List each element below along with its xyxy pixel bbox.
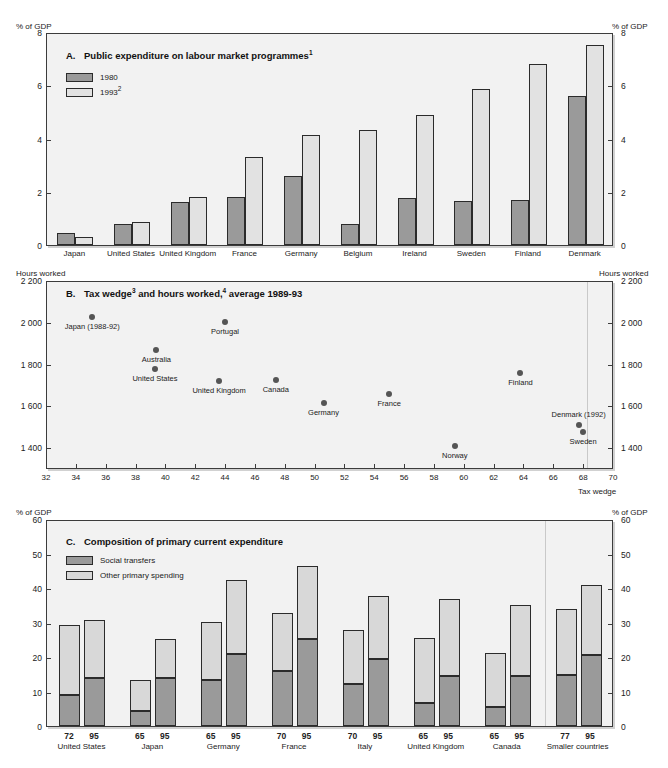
panel-c-segment-other-primary-spending [439, 599, 460, 676]
panel-a-bar-france-1980 [227, 197, 245, 245]
panel-b-dot-label: Sweden [570, 437, 597, 446]
panel-c-segment-social-transfers [272, 671, 293, 726]
panel-c-tickmark [46, 555, 51, 556]
panel-c-ytick-right: 10 [621, 689, 630, 698]
panel-c-segment-other-primary-spending [581, 585, 602, 655]
panel-c-bar-germany-95 [226, 580, 247, 726]
panel-c-ytick-left: 20 [22, 654, 42, 663]
panel-a-tickmark [46, 140, 51, 141]
panel-a-bar-germany-1993 [302, 135, 320, 245]
panel-a-title-text: Public expenditure on labour market prog… [84, 50, 309, 61]
panel-c-segment-social-transfers [343, 684, 364, 726]
panel-b-dot-portugal [222, 319, 228, 325]
legend-label-other-primary-spending: Other primary spending [100, 571, 184, 580]
panel-b-ytick-left: 2 000 [14, 319, 42, 328]
panel-b-dot-canada [273, 377, 279, 383]
panel-c-tickmark [46, 624, 51, 625]
panel-b-dot-finland [517, 370, 523, 376]
panel-b-xtickmark [464, 464, 465, 469]
panel-a-bar-germany-1980 [284, 176, 302, 245]
panel-b-dot-label: Germany [308, 408, 339, 417]
panel-c-segment-other-primary-spending [59, 625, 80, 695]
panel-c-segment-social-transfers [84, 678, 105, 726]
panel-b-dot-sweden [580, 429, 586, 435]
panel-c-tickmark [46, 693, 51, 694]
panel-b-xtickmark [553, 464, 554, 469]
panel-c-segment-social-transfers [439, 676, 460, 726]
panel-b-xtickmark [285, 464, 286, 469]
legend-label-1980: 1980 [100, 73, 118, 82]
panel-c-country-label: Smaller countries [528, 743, 628, 752]
panel-c-segment-other-primary-spending [84, 620, 105, 678]
panel-a-bar-united-states-1993 [132, 222, 150, 245]
figure-top-title [0, 0, 668, 6]
panel-a-bar-denmark-1993 [586, 45, 604, 245]
panel-b-dot-label: Australia [142, 355, 171, 364]
panel-a-title: A.Public expenditure on labour market pr… [66, 50, 313, 61]
panel-c-segment-social-transfers [59, 695, 80, 726]
panel-b-tickmark [46, 323, 51, 324]
panel-c-segment-other-primary-spending [368, 596, 389, 658]
panel-c-title: C.Composition of primary current expendi… [66, 536, 283, 547]
panel-c-bar-united-states-72 [59, 625, 80, 726]
panel-b-dot-australia [153, 347, 159, 353]
panel-b-tickmark [608, 323, 613, 324]
panel-c-ytick-right: 40 [621, 585, 630, 594]
panel-b-plot-area [46, 281, 613, 469]
panel-a-ytick-left: 2 [28, 189, 42, 198]
panel-b-xtickmark [165, 464, 166, 469]
panel-b-xtickmark [434, 464, 435, 469]
panel-a-bar-united-kingdom-1993 [189, 197, 207, 245]
panel-b-dot-label: France [378, 399, 401, 408]
panel-b-tickmark [608, 365, 613, 366]
panel-a-ytick-left: 6 [28, 82, 42, 91]
panel-c-bar-japan-95 [155, 639, 176, 726]
panel-b-ytick-right: 2 000 [621, 319, 642, 328]
panel-b-dot-united-kingdom [216, 378, 222, 384]
panel-b-dot-label: Denmark (1992) [552, 410, 606, 419]
panel-c-bar-united-kingdom-65 [414, 638, 435, 726]
panel-c-year-label: 95 [74, 732, 114, 741]
panel-a-bar-belgium-1993 [359, 130, 377, 245]
panel-b-dot-label: Canada [263, 385, 289, 394]
panel-a-bar-sweden-1980 [454, 201, 472, 245]
panel-a-bar-finland-1993 [529, 64, 547, 245]
panel-a-category-label: Denmark [535, 250, 635, 259]
panel-c-year-label: 95 [499, 732, 539, 741]
panel-c-segment-other-primary-spending [155, 639, 176, 677]
panel-c-segment-social-transfers [414, 703, 435, 726]
panel-c-bar-smaller-countries-95 [581, 585, 602, 726]
panel-c-segment-other-primary-spending [485, 653, 506, 707]
panel-a-plot-area [46, 33, 613, 246]
panel-c-bar-france-70 [272, 613, 293, 727]
panel-c-guide-line [545, 521, 546, 726]
panel-b-ytick-right: 2 200 [621, 277, 642, 286]
panel-a-bar-france-1993 [245, 157, 263, 245]
panel-c-tickmark [608, 589, 613, 590]
panel-a-ytick-right: 4 [621, 136, 626, 145]
panel-a-bar-ireland-1993 [416, 115, 434, 245]
panel-c-segment-social-transfers [226, 654, 247, 726]
panel-c-tickmark [608, 624, 613, 625]
panel-c-bar-italy-95 [368, 596, 389, 726]
panel-b-ytick-right: 1 400 [621, 444, 642, 453]
panel-c-year-label: 95 [216, 732, 256, 741]
legend-label-1993: 19932 [100, 88, 121, 97]
panel-a-ytick-left: 4 [28, 136, 42, 145]
panel-b-dot-label: Portugal [211, 327, 239, 336]
panel-c-bar-united-states-95 [84, 620, 105, 726]
panel-c-ytick-right: 30 [621, 620, 630, 629]
panel-c-segment-social-transfers [510, 676, 531, 726]
panel-b-xtickmark [583, 464, 584, 469]
panel-c-bar-smaller-countries-77 [556, 609, 577, 726]
panel-b-xtickmark [344, 464, 345, 469]
panel-b-xtickmark [106, 464, 107, 469]
panel-c-segment-other-primary-spending [414, 638, 435, 703]
legend-swatch-social-transfers [66, 556, 93, 565]
panel-b-ytick-left: 1 800 [14, 361, 42, 370]
panel-a-ytick-right: 2 [621, 189, 626, 198]
panel-c-ytick-left: 60 [22, 516, 42, 525]
panel-c-segment-other-primary-spending [201, 622, 222, 680]
panel-c-ytick-right: 60 [621, 516, 630, 525]
panel-b-dot-japan-1988-92 [89, 314, 95, 320]
